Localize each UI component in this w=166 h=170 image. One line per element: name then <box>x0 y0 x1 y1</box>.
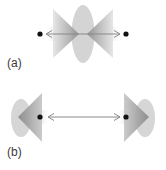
panel-b <box>11 93 155 142</box>
panel-a-label: (a) <box>7 56 22 70</box>
point-right-b <box>123 114 128 119</box>
point-right <box>123 31 128 36</box>
panel-b-label: (b) <box>7 145 22 159</box>
panel-a <box>37 5 128 63</box>
point-left-b <box>37 114 42 119</box>
point-left <box>37 31 42 36</box>
diagram-canvas <box>0 0 166 170</box>
